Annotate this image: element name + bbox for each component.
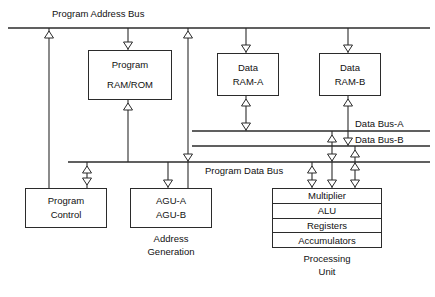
dsp-architecture-diagram: Program Address Bus Data Bus-A Data Bus-… [0, 0, 435, 297]
data-ram-b-line-2: RAM-B [335, 75, 366, 89]
processing-unit-caption: Processing Unit [272, 253, 382, 279]
processing-unit-row-accumulators[interactable]: Accumulators [273, 233, 381, 247]
program-data-bus-label: Program Data Bus [205, 165, 283, 178]
program-control-line-2: Control [51, 208, 82, 222]
processing-unit-caption-line-1: Processing [304, 253, 351, 264]
block-processing-unit[interactable]: Multiplier ALU Registers Accumulators [272, 188, 382, 248]
block-program-control[interactable]: Program Control [25, 188, 107, 228]
program-memory-line-1: Program [112, 58, 148, 72]
address-generation-line-1: Address [154, 233, 189, 244]
data-bus-a-label: Data Bus-A [355, 118, 404, 131]
data-ram-a-line-2: RAM-A [233, 75, 264, 89]
processing-unit-row-multiplier[interactable]: Multiplier [273, 189, 381, 204]
data-bus-b-label: Data Bus-B [355, 134, 404, 147]
agu-line-1: AGU-A [156, 194, 186, 208]
processing-unit-caption-line-2: Unit [319, 266, 336, 277]
program-memory-line-2: RAM/ROM [107, 78, 153, 92]
processing-unit-row-alu[interactable]: ALU [273, 204, 381, 219]
block-data-ram-b[interactable]: Data RAM-B [319, 53, 381, 96]
processing-unit-row-registers[interactable]: Registers [273, 219, 381, 234]
data-ram-b-line-1: Data [340, 61, 360, 75]
program-control-line-1: Program [48, 194, 84, 208]
block-data-ram-a[interactable]: Data RAM-A [217, 53, 279, 96]
address-generation-line-2: Generation [147, 246, 194, 257]
block-agu[interactable]: AGU-A AGU-B [130, 188, 212, 228]
agu-line-2: AGU-B [156, 208, 186, 222]
data-ram-a-line-1: Data [238, 61, 258, 75]
block-program-memory[interactable]: Program RAM/ROM [88, 50, 172, 100]
program-address-bus-label: Program Address Bus [52, 8, 144, 21]
address-generation-caption: Address Generation [130, 233, 212, 259]
